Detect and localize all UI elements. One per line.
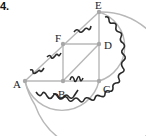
label-f: F [55, 32, 61, 44]
label-c: C [103, 83, 110, 95]
point-c [97, 79, 101, 83]
label-a: A [13, 78, 21, 90]
arc-big [35, 12, 146, 136]
wavy-lines [30, 17, 125, 102]
point-b [61, 79, 65, 83]
label-e: E [95, 0, 102, 11]
label-b: B [58, 88, 65, 100]
problem-number: 4. [0, 0, 9, 12]
segment-ae [25, 12, 99, 81]
segment-bd [63, 44, 99, 81]
point-d [97, 42, 101, 46]
label-d: D [104, 39, 112, 51]
geometry-diagram: 4. A B C D E F [0, 0, 146, 136]
point-f [61, 42, 65, 46]
point-a [23, 79, 27, 83]
figure-lines [25, 12, 146, 136]
